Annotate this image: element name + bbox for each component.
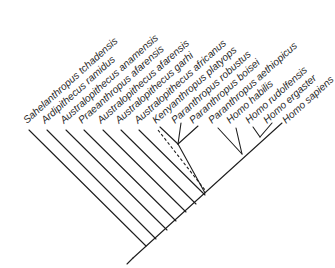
branch-homo-sapiens (260, 123, 272, 137)
branch-au-anamensis (66, 130, 167, 230)
branch-homo-habilis (218, 128, 242, 154)
cladogram-svg: Sahelanthropus tchadensis Ardipithecus r… (0, 0, 335, 268)
branch-paranthropus-stem (178, 144, 205, 193)
root-stem (127, 258, 133, 264)
branch-sahelanthropus (29, 130, 146, 246)
branch-praeanthropus-afarensis (84, 130, 176, 221)
branch-paranthropus-aethiopicus (178, 126, 198, 144)
cladogram-figure: Sahelanthropus tchadensis Ardipithecus r… (0, 0, 335, 268)
branch-paranthropus-boisei (178, 123, 181, 144)
branch-au-afarensis (103, 130, 186, 212)
branch-homo-ergaster (253, 127, 260, 137)
branch-au-garhi (121, 130, 196, 204)
branch-au-africanus (139, 130, 205, 195)
